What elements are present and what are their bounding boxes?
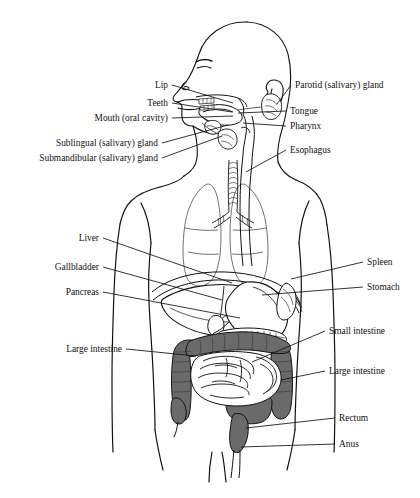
upper-teeth-row (199, 98, 214, 104)
label-submandibular: Submandibular (salivary) gland (39, 154, 158, 163)
label-large-intestine-right: Large intestine (329, 367, 385, 376)
leader-pharynx (243, 123, 286, 126)
tracheal-rings (229, 163, 237, 205)
neck-left (160, 176, 184, 187)
hip-left (155, 430, 163, 470)
lung-left-fissure-2 (188, 252, 219, 254)
label-teeth: Teeth (147, 99, 168, 108)
label-stomach: Stomach (367, 283, 400, 292)
leader-liver (103, 238, 232, 283)
parotid-duct (238, 107, 262, 110)
pharynx-outline (243, 114, 246, 155)
eye-line (197, 67, 211, 69)
spleen-group (277, 283, 296, 320)
label-pancreas: Pancreas (66, 288, 99, 297)
esophagus-left-wall (240, 155, 243, 266)
label-parotid: Parotid (salivary) gland (295, 81, 384, 90)
trachea-left-wall (228, 160, 229, 212)
label-large-intestine-left: Large intestine (66, 345, 122, 354)
neck-right (278, 162, 296, 180)
label-esophagus: Esophagus (290, 146, 331, 155)
trachea-right-wall (237, 160, 238, 212)
leader-stomach (262, 287, 363, 295)
upper-lip (177, 100, 201, 102)
epiglottis (241, 127, 250, 133)
leader-anus (241, 444, 335, 447)
label-pharynx: Pharynx (290, 122, 321, 131)
spleen-outline (277, 283, 296, 320)
torso-right (295, 243, 301, 430)
label-sublingual: Sublingual (salivary) gland (56, 139, 158, 148)
leader-submandibular (162, 136, 222, 158)
pharynx-wall-2 (252, 116, 254, 163)
label-tongue: Tongue (290, 107, 318, 116)
appendix (174, 422, 178, 437)
eyebrow (196, 60, 212, 62)
lung-left-fissure (185, 228, 218, 230)
bronchus-left-2 (214, 217, 230, 228)
lung-right-fissure-2 (232, 252, 263, 254)
label-spleen: Spleen (367, 258, 393, 267)
label-rectum: Rectum (339, 414, 368, 423)
groin-left (209, 452, 212, 482)
label-liver: Liver (79, 234, 99, 243)
anal-canal-group (231, 450, 240, 478)
hip-right (287, 430, 295, 470)
lung-left (183, 184, 221, 286)
submandibular-gland (218, 129, 237, 149)
label-mouth: Mouth (oral cavity) (95, 114, 168, 123)
small-intestine-group (191, 352, 281, 406)
trachea-group (212, 160, 254, 228)
torso-left (149, 243, 155, 430)
anal-canal (231, 450, 234, 478)
shoulder-right (296, 180, 327, 225)
armpit-left (141, 203, 151, 243)
label-anus: Anus (339, 440, 359, 449)
nostril (184, 87, 189, 88)
leader-spleen (291, 262, 363, 279)
armpit-right (299, 201, 309, 243)
label-gallbladder: Gallbladder (55, 263, 99, 272)
label-lip: Lip (155, 81, 168, 90)
anal-canal-2 (239, 450, 240, 478)
esophagus-right-wall (249, 163, 252, 266)
groin-right (222, 452, 226, 482)
diagram-canvas: LipTeethMouth (oral cavity)Sublingual (s… (0, 0, 420, 498)
shoulder-left (120, 187, 160, 224)
arm-left-outer (112, 224, 120, 452)
label-small-intestine: Small intestine (329, 327, 385, 336)
